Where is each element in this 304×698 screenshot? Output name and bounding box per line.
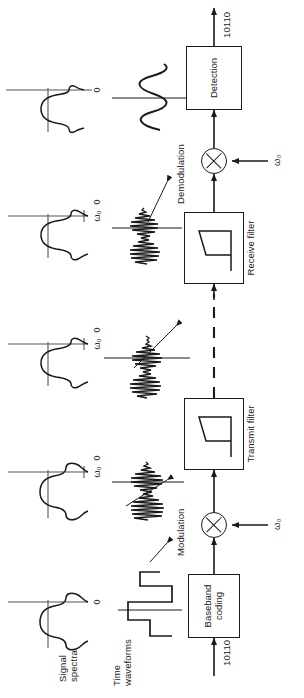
receive-filter-response-icon bbox=[185, 211, 245, 283]
spectrum-baseband-plot: 0 bbox=[8, 593, 102, 650]
spectrum-baseband-center-tick: 0 bbox=[92, 599, 102, 604]
spectrum-receive-filtered-zero-tick: 0 bbox=[92, 199, 102, 204]
output-bits-label: 10110 bbox=[222, 12, 233, 38]
block-receive-filter-label: Receive filter bbox=[246, 213, 257, 283]
block-detection-label: Detection bbox=[209, 47, 220, 109]
input-bits-label: 10110 bbox=[222, 640, 233, 666]
figure-root: 0 ω₀ 0 ω₀ 0 ω₀ 0 bbox=[0, 0, 304, 698]
block-baseband-coding-label: Baseband coding bbox=[203, 575, 225, 637]
transmit-filter-response-icon bbox=[185, 397, 245, 469]
demodulation-label: Demodulation bbox=[176, 144, 187, 204]
block-transmit-filter-label: Transmit filter bbox=[246, 399, 257, 469]
block-baseband-coding[interactable]: Baseband coding bbox=[188, 574, 240, 638]
demodulation-lo-label: ω₀ bbox=[272, 154, 283, 166]
spectrum-transmit-filtered-zero-tick: 0 bbox=[92, 327, 102, 332]
waveform-baseband-nrz-plot bbox=[118, 572, 182, 636]
spectrum-modulated-center-tick: ω₀ bbox=[92, 466, 102, 477]
spectrum-receive-filtered-plot: ω₀ 0 bbox=[8, 199, 102, 259]
time-waveforms-row-label: Time waveforms bbox=[112, 639, 133, 686]
spectrum-transmit-filtered-center-tick: ω₀ bbox=[92, 338, 102, 349]
block-receive-filter[interactable]: Receive filter bbox=[184, 212, 244, 284]
spectrum-transmit-filtered-plot: ω₀ 0 bbox=[8, 327, 102, 387]
leader-receive-to-waveform bbox=[148, 182, 167, 222]
block-detection[interactable]: Detection bbox=[186, 46, 242, 110]
leader-coding-to-waveform bbox=[150, 543, 167, 562]
block-transmit-filter[interactable]: Transmit filter bbox=[184, 398, 244, 470]
spectrum-demodulated-center-tick: 0 bbox=[92, 87, 102, 92]
spectrum-receive-filtered-center-tick: ω₀ bbox=[92, 210, 102, 221]
modulation-lo-label: ω₀ bbox=[272, 518, 283, 530]
spectrum-modulated-plot: ω₀ 0 bbox=[8, 455, 102, 519]
modulation-label: Modulation bbox=[176, 509, 187, 556]
spectrum-demodulated-plot: 0 bbox=[6, 86, 102, 133]
waveform-transmit-filtered-plot bbox=[104, 336, 190, 398]
spectrum-modulated-zero-tick: 0 bbox=[92, 455, 102, 460]
waveform-receive-filtered-plot bbox=[112, 208, 182, 264]
block-demodulation-mixer[interactable] bbox=[201, 148, 227, 174]
waveform-demodulated-plot bbox=[112, 64, 186, 130]
figure-linework: 0 ω₀ 0 ω₀ 0 ω₀ 0 bbox=[0, 0, 304, 698]
waveform-modulated-plot bbox=[112, 462, 184, 520]
block-modulation-mixer[interactable] bbox=[201, 512, 227, 538]
signal-spectra-row-label: Signal spectra bbox=[58, 650, 79, 682]
